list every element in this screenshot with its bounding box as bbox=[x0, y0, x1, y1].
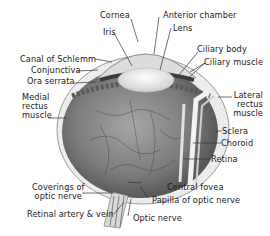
label-medial-rectus-muscle: Medial rectus muscle bbox=[22, 93, 52, 120]
lens-shape bbox=[118, 68, 174, 92]
label-cornea: Cornea bbox=[100, 11, 130, 20]
label-papilla-of-optic-nerve: Papilla of optic nerve bbox=[152, 196, 240, 205]
label-central-fovea: Central fovea bbox=[167, 183, 224, 192]
label-retina: Retina bbox=[211, 155, 238, 164]
label-medial-rectus-line3: muscle bbox=[22, 111, 52, 120]
label-optic-nerve: Optic nerve bbox=[133, 214, 182, 223]
label-ora-serrata: Ora serrata bbox=[27, 77, 75, 86]
label-lateral-rectus-line3: muscle bbox=[233, 109, 263, 118]
label-retinal-artery-and-vein: Retinal artery & vein bbox=[27, 210, 114, 219]
label-lateral-rectus-muscle: Lateral rectus muscle bbox=[233, 91, 263, 118]
label-canal-of-schlemm: Canal of Schlemm bbox=[20, 55, 96, 64]
label-iris: Iris bbox=[103, 28, 116, 37]
label-ciliary-muscle: Ciliary muscle bbox=[204, 58, 263, 67]
label-coverings-of-optic-nerve: Coverings of optic nerve bbox=[32, 183, 85, 201]
label-ciliary-body: Ciliary body bbox=[197, 45, 247, 54]
label-conjunctiva: Conjunctiva bbox=[31, 66, 81, 75]
label-lens: Lens bbox=[173, 24, 192, 33]
label-coverings-line2: optic nerve bbox=[32, 192, 85, 201]
label-anterior-chamber: Anterior chamber bbox=[163, 11, 237, 20]
label-choroid: Choroid bbox=[221, 139, 253, 148]
label-sclera: Sclera bbox=[222, 127, 248, 136]
